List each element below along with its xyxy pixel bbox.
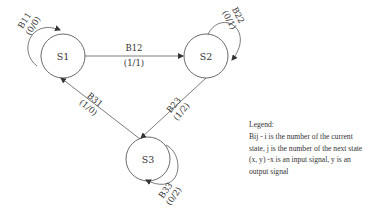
transition-b23: B23 (1/2) (141, 78, 206, 138)
legend-line: state, j is the number of the next state (249, 143, 371, 155)
transition-b12-signal: (1/1) (124, 58, 144, 68)
transition-b31: B31 (1/0) (61, 78, 140, 139)
state-s2: S2 (184, 34, 228, 78)
legend-line: Bij - i is the number of the current (249, 131, 371, 143)
state-s3-label: S3 (142, 154, 155, 165)
state-diagram: S1 S2 S3 B11 (0/0) B12 (1/1) B22 (0/1) B… (0, 0, 371, 213)
legend: Legend: Bij - i is the number of the cur… (249, 119, 371, 178)
legend-title: Legend: (249, 119, 371, 131)
transition-b12-label: B12 (125, 43, 142, 53)
transition-b11: B11 (0/0) (15, 9, 60, 66)
state-s3: S3 (126, 137, 170, 181)
state-s1: S1 (41, 34, 85, 78)
legend-line: output signal (249, 166, 371, 178)
legend-line: (x, y) -x is an input signal, y is an (249, 154, 371, 166)
state-s2-label: S2 (200, 51, 213, 62)
state-s1-label: S1 (57, 51, 70, 62)
transition-b12: B12 (1/1) (85, 43, 183, 68)
